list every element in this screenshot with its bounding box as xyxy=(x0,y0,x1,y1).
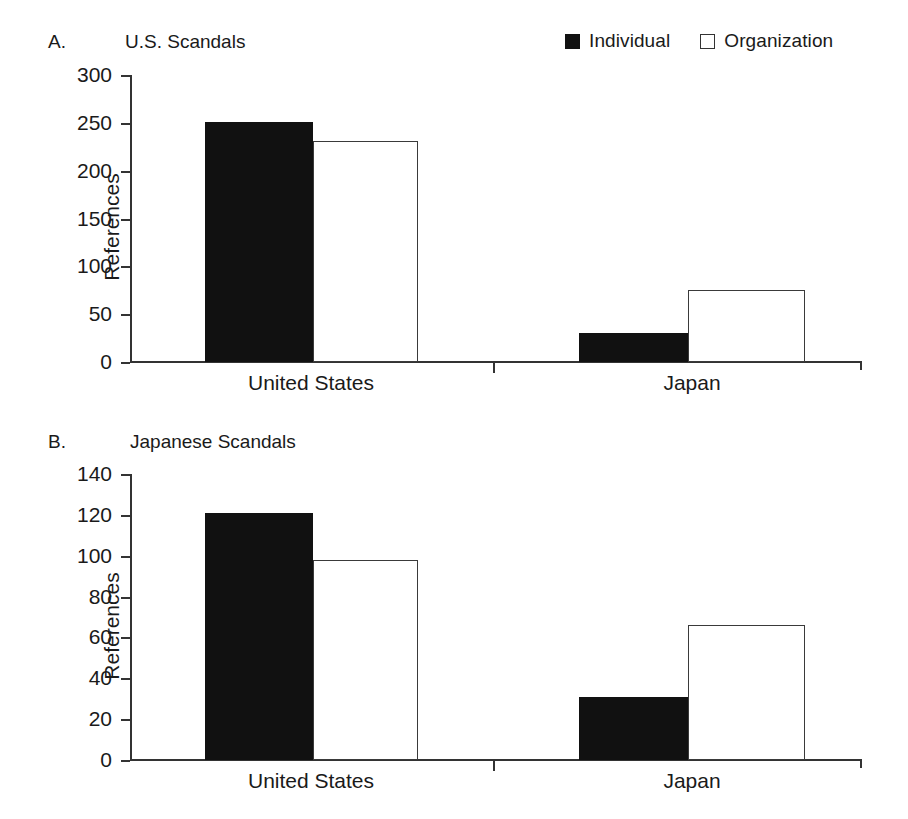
x-category-label-a-japan: Japan xyxy=(663,372,720,393)
x-axis-category-labels-b: United States Japan xyxy=(130,770,862,800)
y-axis-title-b: References xyxy=(100,572,124,679)
bar-a-united-states-organization[interactable] xyxy=(313,141,418,362)
y-tick-a-50: 50 xyxy=(121,314,130,316)
y-tick-label-a-250: 250 xyxy=(77,112,112,133)
bar-b-japan-organization[interactable] xyxy=(688,625,805,760)
x-axis-category-labels-a: United States Japan xyxy=(130,372,862,402)
x-category-label-b-japan: Japan xyxy=(663,770,720,791)
panel-a-title: U.S. Scandals xyxy=(125,31,245,53)
y-tick-label-a-0: 0 xyxy=(100,351,112,372)
x-category-label-a-united-states: United States xyxy=(248,372,374,393)
y-tick-label-b-120: 120 xyxy=(77,504,112,525)
y-tick-label-b-0: 0 xyxy=(100,749,112,770)
y-tick-label-a-300: 300 xyxy=(77,64,112,85)
y-tick-label-a-50: 50 xyxy=(89,303,112,324)
y-tick-b-120: 120 xyxy=(121,515,130,517)
panel-a-letter: A. xyxy=(48,31,66,53)
panel-b-title: Japanese Scandals xyxy=(130,431,296,453)
y-tick-a-0: 0 xyxy=(121,362,130,364)
y-tick-label-b-20: 20 xyxy=(89,708,112,729)
panel-b: B. Japanese Scandals 140 120 100 80 60 xyxy=(0,400,908,819)
y-tick-b-140: 140 xyxy=(121,474,130,476)
plot-area-b: 140 120 100 80 60 40 20 0 xyxy=(130,474,862,760)
bar-a-japan-individual[interactable] xyxy=(579,333,688,362)
bar-b-japan-individual[interactable] xyxy=(579,697,688,760)
bar-a-japan-organization[interactable] xyxy=(688,290,805,362)
y-axis-title-a: References xyxy=(100,173,124,280)
y-tick-a-250: 250 xyxy=(121,123,130,125)
plot-area-a: 300 250 200 150 100 50 0 References xyxy=(130,75,862,362)
y-axis-line-a xyxy=(130,75,132,362)
y-tick-a-300: 300 xyxy=(121,75,130,77)
x-axis-endcap-a xyxy=(860,361,862,370)
panel-a: A. U.S. Scandals 300 250 200 150 100 xyxy=(0,0,908,410)
bar-b-united-states-organization[interactable] xyxy=(313,560,418,760)
bar-b-united-states-individual[interactable] xyxy=(205,513,313,760)
y-tick-label-b-140: 140 xyxy=(77,463,112,484)
y-tick-b-0: 0 xyxy=(121,760,130,762)
y-tick-b-100: 100 xyxy=(121,556,130,558)
figure-canvas: Individual Organization A. U.S. Scandals… xyxy=(0,0,908,819)
y-tick-b-20: 20 xyxy=(121,719,130,721)
x-axis-endcap-b xyxy=(860,759,862,768)
bar-a-united-states-individual[interactable] xyxy=(205,122,313,362)
panel-b-letter: B. xyxy=(48,431,66,453)
x-category-label-b-united-states: United States xyxy=(248,770,374,791)
y-axis-line-b xyxy=(130,474,132,760)
y-tick-label-b-100: 100 xyxy=(77,545,112,566)
